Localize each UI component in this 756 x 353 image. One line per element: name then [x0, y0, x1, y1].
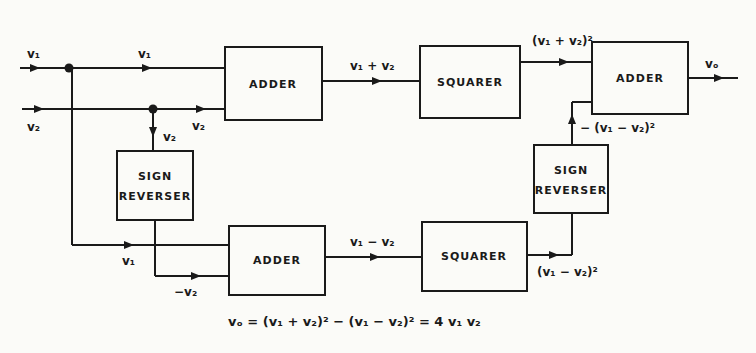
- sign-left-label-2: REVERSER: [119, 190, 191, 203]
- label-diff: v₁ − v₂: [350, 235, 395, 249]
- adder-bottom-block: ADDER: [229, 226, 325, 295]
- label-sum: v₁ + v₂: [350, 59, 395, 73]
- label-v1-to-adder: v₁: [138, 47, 151, 61]
- squarer-top-label: SQUARER: [437, 76, 503, 89]
- sign-right-label-1: SIGN: [554, 164, 588, 177]
- sign-reverser-left-block: SIGN REVERSER: [117, 151, 193, 220]
- label-output: vₒ: [705, 57, 719, 71]
- adder-top-block: ADDER: [225, 47, 322, 120]
- label-sum-squared: (v₁ + v₂)²: [532, 34, 593, 48]
- block-diagram: ADDER SQUARER ADDER SIGN REVERSER SIGN R…: [0, 0, 756, 353]
- squarer-top-block: SQUARER: [420, 46, 520, 118]
- label-neg-diff-squared: − (v₁ − v₂)²: [580, 121, 655, 135]
- label-v1-bottom: v₁: [122, 254, 135, 268]
- adder-output-label: ADDER: [616, 72, 664, 85]
- label-v2-down: v₂: [163, 130, 176, 144]
- adder-bottom-label: ADDER: [253, 254, 301, 267]
- label-neg-v2: −v₂: [174, 285, 197, 299]
- label-diff-squared: (v₁ − v₂)²: [537, 265, 598, 279]
- label-v2-to-adder: v₂: [192, 119, 205, 133]
- squarer-bottom-block: SQUARER: [422, 222, 527, 291]
- squarer-bottom-label: SQUARER: [441, 250, 507, 263]
- sign-reverser-right-block: SIGN REVERSER: [534, 145, 608, 213]
- output-equation: vₒ = (v₁ + v₂)² − (v₁ − v₂)² = 4 v₁ v₂: [228, 314, 481, 329]
- adder-top-label: ADDER: [249, 78, 297, 91]
- label-input-v1: v₁: [27, 47, 40, 61]
- adder-output-block: ADDER: [592, 42, 688, 114]
- sign-right-label-2: REVERSER: [535, 184, 607, 197]
- label-input-v2: v₂: [27, 120, 40, 134]
- sign-left-label-1: SIGN: [138, 170, 172, 183]
